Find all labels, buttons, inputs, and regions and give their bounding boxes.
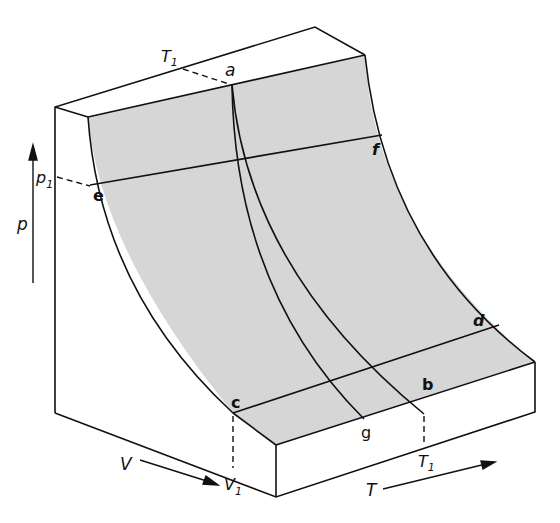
label-T1-bottom: T1 xyxy=(418,452,435,474)
point-b-label: b xyxy=(422,375,433,394)
label-T1-top: T1 xyxy=(161,47,178,69)
label-p-axis: p xyxy=(16,214,28,234)
t-arrowhead-icon xyxy=(481,461,495,469)
v-arrowhead-icon xyxy=(203,476,218,485)
label-V-axis: V xyxy=(120,454,133,474)
point-g-label: g xyxy=(361,423,371,442)
point-d-label: d xyxy=(473,311,485,330)
pvt-surface-diagram: T1 a p1 p e f d b c g T1 T V V1 xyxy=(0,0,560,523)
label-T-axis: T xyxy=(366,480,378,500)
p-arrowhead-icon xyxy=(29,145,37,160)
point-a-label: a xyxy=(225,60,235,80)
point-c-label: c xyxy=(231,393,240,412)
t-axis-arrow xyxy=(383,463,490,489)
label-p1: p1 xyxy=(35,168,53,191)
point-e-label: e xyxy=(93,186,104,205)
